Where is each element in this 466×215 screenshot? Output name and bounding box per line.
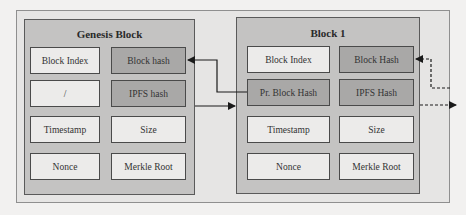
connection-arrows [0, 0, 466, 215]
prev-hash-arrow [188, 60, 247, 92]
next-block-hash-arrow [416, 59, 450, 88]
